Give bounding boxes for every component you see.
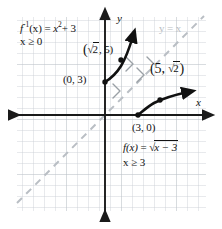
y-axis-label-text: y <box>117 12 122 24</box>
point-marker-5-sqrt2 <box>157 97 162 102</box>
inverse-eq-plus-three: + 3 <box>62 22 76 34</box>
sqrt2-5-rest: , 5) <box>99 43 113 55</box>
label-function-equation: f(x) = √x − 3 <box>123 141 178 154</box>
inverse-eq-equals: = <box>44 22 50 34</box>
point-marker-0-3 <box>102 79 107 84</box>
function-eq-radicand: x − 3 <box>154 140 178 153</box>
label-inverse-equation: f-1(x) = x2+ 3 <box>20 21 76 35</box>
x-axis-label-text: x <box>196 96 201 108</box>
point-marker-sqrt2-5 <box>118 57 123 62</box>
inverse-eq-of-x: (x) <box>29 22 42 34</box>
function-eq-equals: = <box>141 141 147 153</box>
graph-figure: f-1(x) = x2+ 3 x ≥ 0 (√2, 5) (0, 3) (5, … <box>0 0 222 229</box>
label-point-3-0: (3, 0) <box>132 121 155 134</box>
label-point-0-3: (0, 3) <box>63 73 86 86</box>
function-eq-f-of-x: f(x) <box>123 141 138 153</box>
label-function-domain: x ≥ 3 <box>123 156 145 169</box>
y-axis-label: y <box>117 12 122 25</box>
five-sqrt2-open: (5, <box>150 61 168 76</box>
curve-f-sqrt <box>138 92 188 115</box>
label-inverse-domain: x ≥ 0 <box>20 35 42 48</box>
label-point-sqrt2-5: (√2, 5) <box>83 42 113 59</box>
label-point-5-sqrt2: (5, √2) <box>150 61 184 78</box>
point-marker-3-0 <box>135 112 140 117</box>
reflection-tick-marks <box>113 57 154 98</box>
five-sqrt2-close: ) <box>180 61 185 76</box>
label-identity-line: y = x <box>159 22 181 35</box>
x-axis-label: x <box>196 96 201 109</box>
